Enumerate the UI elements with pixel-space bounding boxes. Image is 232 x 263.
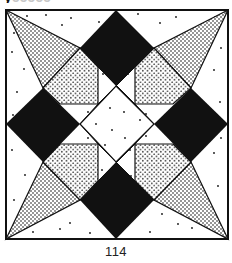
center-dot [123,111,125,113]
center-dot [124,137,126,139]
background-dot [13,199,15,201]
center-dot [109,107,111,109]
background-dot [137,13,139,15]
background-dot [32,231,34,233]
center-dot [104,144,106,146]
background-dot [24,174,26,176]
background-dot [61,24,63,26]
background-dot [177,223,179,225]
center-dot [87,137,89,139]
background-dot [175,16,177,18]
center-dot [145,113,147,115]
background-dot [161,213,163,215]
background-dot [219,101,221,103]
background-dot [11,149,13,151]
background-dot [16,91,18,93]
background-dot [26,15,28,17]
quilt-block-figure [0,0,232,243]
background-dot [217,185,219,187]
background-dot [59,228,61,230]
background-dot [11,51,13,53]
center-dot [87,111,89,113]
background-dot [191,227,193,229]
background-dot [70,17,72,19]
background-dot [13,32,15,34]
background-dot [69,222,71,224]
center-dot [101,169,103,171]
background-dot [220,47,222,49]
background-dot [98,21,100,23]
center-dot [139,119,141,121]
center-dot [129,149,131,151]
background-dot [213,69,215,71]
background-dot [159,22,161,24]
center-dot [111,129,113,131]
background-dot [213,152,215,154]
background-dot [23,68,25,70]
background-dot [12,114,14,116]
page-number: 114 [0,244,232,259]
background-dot [220,137,222,139]
background-dot [45,14,47,16]
center-dot [145,135,147,137]
background-dot [89,232,91,234]
center-dot [95,123,97,125]
center-dot [102,73,104,75]
background-dot [149,231,151,233]
